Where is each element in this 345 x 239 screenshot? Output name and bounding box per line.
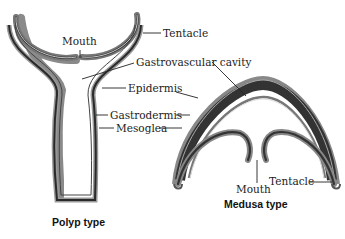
- polyp-label-epidermis: Epidermis: [128, 82, 182, 94]
- polyp-cavity-leader: [82, 63, 134, 79]
- polyp-label-tentacle: Tentacle: [163, 27, 208, 39]
- medusa-epidermis-leader: [176, 92, 198, 98]
- polyp-label-gastrovascular-cavity: Gastrovascular cavity: [136, 56, 251, 68]
- medusa-label-tentacle: Tentacle: [269, 175, 314, 187]
- medusa-label-mouth: Mouth: [236, 183, 271, 195]
- polyp-label-gastrodermis: Gastrodermis: [110, 109, 182, 121]
- cnidarian-body-plans-diagram: Mouth Tentacle Gastrovascular cavity Epi…: [0, 0, 345, 239]
- polyp-caption: Polyp type: [52, 216, 105, 228]
- medusa-caption: Medusa type: [224, 198, 288, 210]
- polyp-label-mouth: Mouth: [62, 35, 97, 47]
